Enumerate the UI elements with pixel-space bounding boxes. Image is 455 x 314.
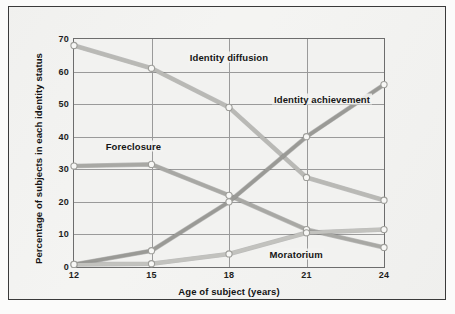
x-axis-tick-labels: 1215182124	[73, 270, 385, 286]
y-tick-label: 60	[45, 67, 69, 77]
data-point-marker	[226, 104, 232, 110]
series-label: Identity achievement	[272, 94, 372, 105]
data-point-marker	[148, 161, 154, 167]
y-tick-label: 50	[45, 99, 69, 109]
x-tick-label: 12	[69, 270, 79, 280]
y-tick-label: 10	[45, 229, 69, 239]
data-point-marker	[226, 251, 232, 257]
data-point-marker	[148, 248, 154, 254]
y-tick-label: 0	[45, 262, 69, 272]
series-line	[74, 164, 384, 247]
data-point-marker	[71, 163, 77, 169]
data-point-marker	[148, 65, 154, 71]
x-axis-title: Age of subject (years)	[73, 286, 385, 297]
data-point-marker	[381, 226, 387, 232]
data-point-marker	[71, 261, 77, 267]
x-tick-label: 21	[301, 270, 311, 280]
data-point-marker	[303, 134, 309, 140]
data-point-marker	[71, 42, 77, 48]
series-label: Identity diffusion	[188, 51, 270, 62]
data-point-marker	[381, 197, 387, 203]
plot-area: Identity diffusionForeclosureIdentity ac…	[73, 38, 385, 268]
data-point-marker	[226, 192, 232, 198]
series-line-shadow	[74, 46, 384, 201]
y-tick-label: 30	[45, 164, 69, 174]
y-tick-label: 70	[45, 34, 69, 44]
data-point-marker	[381, 82, 387, 88]
series-line	[74, 46, 384, 201]
series-label: Foreclosure	[104, 141, 163, 152]
x-tick-label: 15	[146, 270, 156, 280]
y-axis-title: Percentage of subjects in each identity …	[33, 44, 44, 274]
figure-container: Percentage of subjects in each identity …	[0, 0, 455, 314]
x-tick-label: 18	[224, 270, 234, 280]
series-label: Moratorium	[268, 248, 325, 259]
data-point-marker	[303, 230, 309, 236]
line-chart: Percentage of subjects in each identity …	[0, 0, 455, 314]
y-tick-label: 40	[45, 132, 69, 142]
data-point-marker	[226, 199, 232, 205]
x-tick-label: 24	[379, 270, 389, 280]
data-point-marker	[303, 174, 309, 180]
series-lines-and-markers	[74, 39, 384, 267]
y-axis-tick-labels: 010203040506070	[44, 38, 69, 268]
y-tick-label: 20	[45, 197, 69, 207]
data-point-marker	[148, 261, 154, 267]
data-point-marker	[381, 244, 387, 250]
